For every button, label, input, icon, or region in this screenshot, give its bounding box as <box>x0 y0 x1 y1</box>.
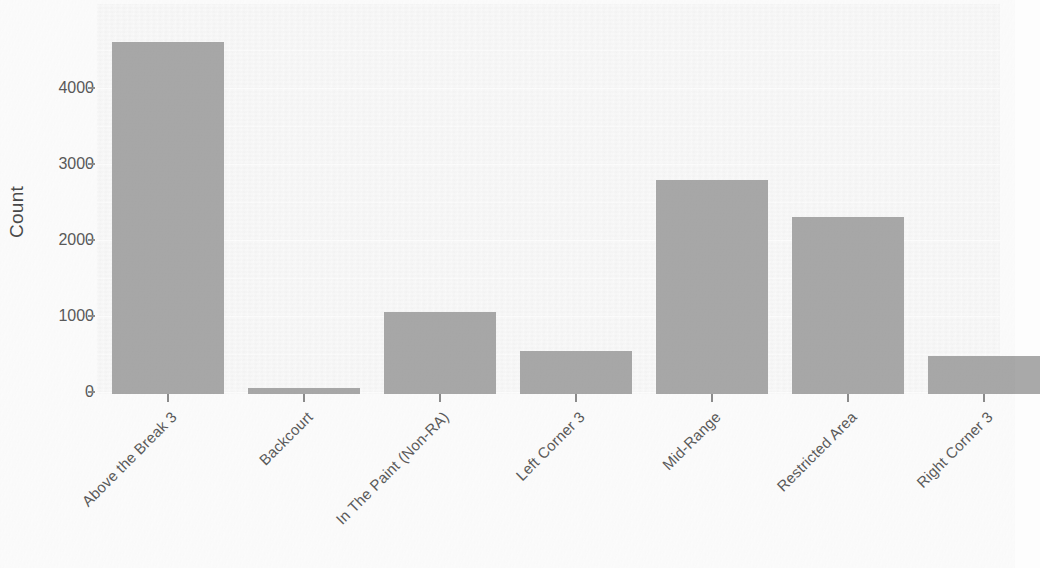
bar-left-corner-3[interactable] <box>520 351 632 394</box>
y-tick-mark-0 <box>88 391 95 393</box>
bar-above-the-break-3[interactable] <box>112 42 224 394</box>
x-label-mid-range: Mid-Range <box>585 408 724 547</box>
x-label-backcourt: Backcourt <box>177 408 316 547</box>
bar-right-corner-3[interactable] <box>928 356 1040 394</box>
x-label-in-the-paint-non-ra: In The Paint (Non-RA) <box>313 408 452 547</box>
x-tick-mark-0 <box>167 394 169 402</box>
y-tick-label-2000: 2000 <box>8 231 94 249</box>
x-label-right-corner-3: Right Corner 3 <box>857 408 996 547</box>
x-tick-mark-6 <box>983 394 985 402</box>
x-tick-mark-2 <box>439 394 441 402</box>
x-tick-mark-3 <box>575 394 577 402</box>
x-tick-mark-1 <box>303 394 305 402</box>
bar-mid-range[interactable] <box>656 180 768 394</box>
bar-in-the-paint-non-ra[interactable] <box>384 312 496 394</box>
y-axis-ticks: 0 1000 2000 3000 4000 <box>0 0 94 568</box>
bar-restricted-area[interactable] <box>792 217 904 394</box>
y-tick-label-3000: 3000 <box>8 155 94 173</box>
y-tick-label-0: 0 <box>8 383 94 401</box>
x-label-restricted-area: Restricted Area <box>721 408 860 547</box>
y-tick-mark-3000 <box>88 163 95 165</box>
y-tick-mark-2000 <box>88 239 95 241</box>
y-tick-mark-1000 <box>88 315 95 317</box>
x-tick-mark-5 <box>847 394 849 402</box>
x-tick-mark-4 <box>711 394 713 402</box>
y-tick-label-1000: 1000 <box>8 307 94 325</box>
y-tick-mark-4000 <box>88 87 95 89</box>
x-label-left-corner-3: Left Corner 3 <box>449 408 588 547</box>
bars-layer <box>97 4 1000 394</box>
y-tick-label-4000: 4000 <box>8 79 94 97</box>
